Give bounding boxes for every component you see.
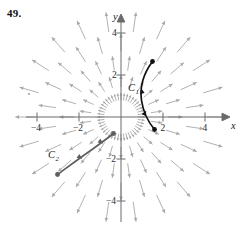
field-arrow [171, 160, 184, 171]
field-arrow [128, 133, 131, 139]
field-arrow [157, 173, 166, 187]
field-arrow-head [20, 144, 24, 148]
field-arrow [114, 94, 116, 100]
curve-endpoint-dot [55, 172, 60, 177]
y-tick-label: −4 [106, 196, 116, 206]
field-arrow [98, 119, 104, 122]
field-arrow-head [130, 77, 134, 81]
field-arrow [161, 84, 173, 91]
field-arrow-head [176, 99, 180, 103]
field-arrow [133, 202, 137, 221]
field-arrow [98, 113, 104, 116]
field-arrow [149, 100, 159, 105]
field-arrow [133, 13, 137, 32]
field-arrow [76, 173, 85, 187]
field-arrow [111, 96, 114, 102]
field-arrow [128, 96, 131, 102]
curve-label-subscript: 1 [136, 88, 140, 96]
field-arrow [108, 97, 111, 102]
field-arrow [141, 160, 147, 173]
field-arrow [100, 107, 106, 110]
vector-field-plot: −4−22442−2−4 y x C1C2 [0, 0, 243, 229]
field-arrow [193, 60, 209, 70]
field-arrow [204, 141, 223, 147]
field-arrow [130, 97, 133, 102]
field-arrow [90, 90, 98, 97]
curve-endpoint-dot [150, 59, 155, 64]
field-arrow [117, 94, 120, 100]
field-arrow-head [97, 37, 101, 41]
field-arrow [137, 143, 143, 152]
field-arrow [123, 134, 126, 140]
field-arrow [157, 21, 165, 39]
curve-label: C1 [128, 82, 139, 96]
field-arrow [32, 164, 48, 174]
field-arrow [123, 94, 126, 100]
field-arrow [126, 134, 128, 140]
field-arrow [117, 134, 120, 140]
field-arrow [52, 182, 65, 197]
field-arrow [138, 110, 144, 112]
field-arrow [152, 71, 161, 81]
field-arrow [46, 82, 61, 89]
x-axis-label: x [230, 120, 236, 131]
field-arrow [111, 164, 115, 178]
field-arrow [134, 102, 139, 106]
x-tick-label: 4 [203, 123, 208, 133]
field-arrow [20, 141, 39, 147]
field-arrow [80, 110, 91, 114]
field-arrow-head [176, 131, 180, 135]
curve-label: C2 [48, 149, 60, 163]
field-arrow [99, 82, 105, 91]
field-arrow [32, 60, 48, 70]
field-arrow [134, 128, 139, 132]
field-arrow [101, 126, 106, 129]
field-arrow [137, 124, 143, 127]
field-arrow [177, 37, 190, 52]
field-arrow [127, 164, 131, 178]
field-arrow [166, 130, 179, 135]
x-tick-label: −4 [31, 123, 41, 133]
field-arrow-head [97, 193, 101, 197]
field-arrow [97, 180, 103, 196]
field-arrow [132, 130, 136, 135]
figure-root: 49. −4−22442−2−4 y x C1C2 [0, 0, 243, 229]
field-arrow [39, 126, 56, 130]
field-arrow [62, 99, 75, 104]
y-tick-label: 2 [112, 70, 117, 80]
field-arrow-head [142, 37, 146, 41]
field-arrow [106, 99, 110, 104]
field-arrow [130, 131, 133, 136]
field-arrow [151, 110, 162, 114]
field-arrow [106, 130, 110, 135]
x-tick-label: −2 [73, 123, 83, 133]
x-tick-label: 2 [161, 123, 166, 133]
y-tick-label: −2 [106, 154, 116, 164]
curve-label-subscript: 2 [56, 155, 60, 163]
field-arrow [161, 143, 173, 150]
field-arrow [95, 160, 101, 173]
field-arrow [126, 94, 128, 100]
field-arrow [130, 146, 134, 156]
field-arrow [20, 86, 39, 92]
field-arrow [76, 47, 85, 61]
field-arrow [70, 143, 82, 150]
field-arrow [166, 99, 179, 104]
field-arrow [105, 13, 109, 32]
field-arrow [186, 104, 203, 108]
field-arrow [111, 57, 115, 71]
field-arrow [181, 82, 196, 89]
field-arrow [204, 86, 223, 92]
field-arrow [186, 126, 203, 130]
field-arrow [83, 100, 93, 105]
y-axis-label: y [112, 11, 118, 22]
field-arrow [97, 37, 103, 53]
field-arrow [140, 180, 146, 196]
x-axis-arrowhead [222, 113, 230, 121]
field-arrow [137, 107, 143, 110]
field-arrow-head [142, 193, 146, 197]
field-arrow-head [218, 86, 222, 90]
y-axis-arrowhead [117, 14, 125, 22]
field-arrow [193, 164, 209, 174]
page-speck [28, 93, 30, 95]
